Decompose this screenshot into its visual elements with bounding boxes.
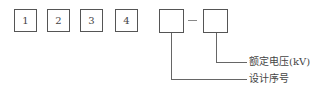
rated-voltage-leader-horizontal — [216, 62, 247, 63]
code-box-3-label: 3 — [88, 15, 94, 26]
design-serial-leader-horizontal — [171, 79, 247, 80]
rated-voltage-leader-vertical — [216, 33, 217, 62]
rated-voltage-label: 额定电压(kV) — [249, 56, 310, 68]
code-box-4-label: 4 — [123, 15, 129, 26]
code-box-rated-voltage — [203, 9, 228, 33]
code-box-2: 2 — [47, 9, 70, 32]
code-box-1-label: 1 — [22, 15, 28, 26]
design-serial-label: 设计序号 — [249, 73, 289, 85]
code-box-design-serial — [159, 9, 184, 33]
code-box-4: 4 — [115, 9, 138, 32]
code-box-3: 3 — [80, 9, 103, 32]
separator-dash — [188, 20, 197, 21]
code-box-1: 1 — [14, 9, 37, 32]
design-serial-leader-vertical — [171, 33, 172, 79]
code-box-2-label: 2 — [55, 15, 61, 26]
